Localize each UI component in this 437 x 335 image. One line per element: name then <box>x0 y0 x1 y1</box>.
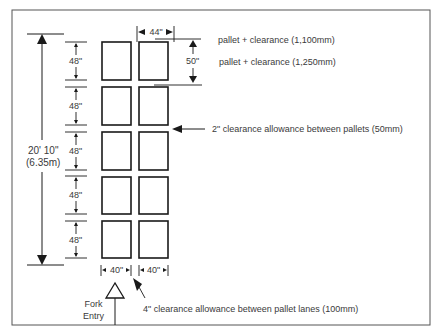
overall-length-imperial: 20' 10" <box>26 145 60 157</box>
fork-entry-label: Fork Entry <box>83 298 104 322</box>
pallet-clearance-note: 2" clearance allowance between pallets (… <box>212 124 403 134</box>
pallet-width-label: 40" <box>144 265 163 275</box>
fork-entry-arrow-icon <box>106 283 124 298</box>
overall-length-metric: (6.35m) <box>26 157 60 169</box>
pallet <box>139 177 168 214</box>
pallet-width-label: 40" <box>107 265 126 275</box>
row-pitch-label: 48" <box>69 190 82 200</box>
lane-clearance-pointer <box>133 278 145 298</box>
pallet <box>102 221 131 258</box>
pallet <box>102 132 131 170</box>
lane-clearance-note: 4" clearance allowance between pallet la… <box>143 304 358 314</box>
pallet <box>102 42 131 80</box>
pallet <box>139 221 168 258</box>
row-depth-note: pallet + clearance (1,250mm) <box>219 57 336 67</box>
row-pitch-label: 48" <box>69 146 82 156</box>
pallet <box>102 177 131 214</box>
pallet <box>139 87 168 125</box>
arrow-up-icon <box>189 40 197 47</box>
fork-entry-line1: Fork <box>83 298 104 310</box>
arrow-up-icon <box>37 34 47 44</box>
row-pitch-label: 48" <box>69 101 82 111</box>
lane-width-label: 44" <box>146 27 166 37</box>
row-pitch-label: 48" <box>69 56 82 66</box>
pallet <box>139 42 168 80</box>
overall-length-label: 20' 10" (6.35m) <box>26 145 60 169</box>
row-depth-label: 50" <box>186 56 199 66</box>
fork-entry-line2: Entry <box>83 310 104 322</box>
pallet-grid <box>102 42 168 258</box>
arrow-left-icon <box>172 125 182 133</box>
arrow-down-icon <box>37 255 47 265</box>
pallet <box>102 87 131 125</box>
fork-entry-arrow <box>106 283 124 325</box>
arrow-down-icon <box>189 76 197 83</box>
arrow-up-left-icon <box>133 278 142 291</box>
pallet <box>139 132 168 170</box>
row-pitch-label: 48" <box>69 235 82 245</box>
diagram-canvas <box>0 0 437 335</box>
pallet-clearance-pointer <box>172 125 205 133</box>
arrow-left-icon <box>138 29 145 35</box>
lane-width-note: pallet + clearance (1,100mm) <box>218 35 335 45</box>
arrow-right-icon <box>166 29 173 35</box>
